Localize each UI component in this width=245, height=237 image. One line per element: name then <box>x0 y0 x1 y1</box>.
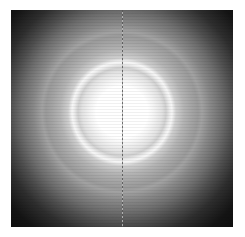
vertical-dashed-line <box>122 10 123 227</box>
